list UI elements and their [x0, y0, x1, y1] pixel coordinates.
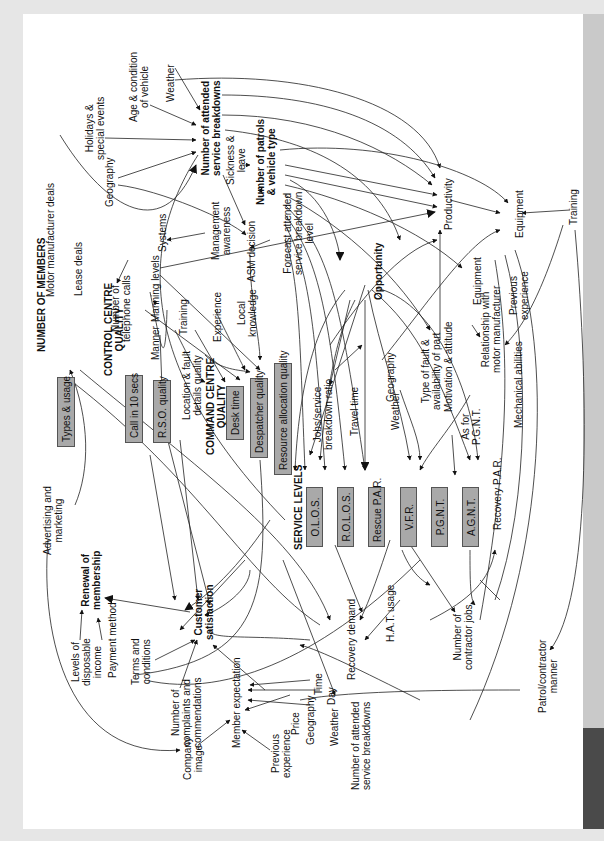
- as-for-pgnt-label: As for P.G.N.T.: [460, 409, 482, 446]
- opportunity-node: Opportunity: [373, 243, 384, 300]
- jobs-ratio-label: Jobs/service breakdown ratio: [312, 379, 334, 450]
- sickness-leave-label: Sickness & leave: [225, 136, 247, 185]
- management-awareness-label: Management awareness: [210, 202, 232, 260]
- type-of-fault-label: Type of fault & availability of part: [420, 333, 442, 410]
- levels-income-label: Levels of disposable income: [70, 638, 103, 686]
- number-of-patrols-node: Number of patrols & vehicle type: [255, 119, 277, 205]
- time-label: Time: [313, 673, 324, 695]
- rescue-par-box: Rescue P.A.R.: [368, 487, 385, 547]
- forecast-label: Forecast attended service breakdown leve…: [282, 192, 315, 275]
- weather-top-label: Weather: [165, 64, 176, 102]
- manning-levels-label: Manning levels: [150, 255, 161, 322]
- previous-experience-bottom-label: Previous experience: [270, 729, 292, 778]
- number-attended-breakdowns-node: Number of attended service breakdowns: [200, 80, 222, 176]
- day-label: Day: [326, 687, 337, 705]
- attended-breakdowns-bottom-label: Number of attended service breakdowns: [350, 702, 372, 790]
- contractor-jobs-label: Number of contractor jobs: [452, 604, 474, 670]
- despatcher-quality-box: Despatcher quality: [250, 378, 268, 458]
- member-expectation-label: Member expectation: [231, 657, 242, 748]
- equipment-right-label: Equipment: [514, 190, 525, 238]
- geography-bottom-label: Geography: [305, 696, 316, 745]
- rolos-box: R.O.L.O.S.: [337, 487, 354, 547]
- pgnt-box: P.G.N.T.: [431, 487, 448, 547]
- motor-manufacturer-deals-label: Motor manufacturer deals: [45, 183, 56, 297]
- rso-quality-box: R.S.O. quality: [153, 380, 171, 443]
- productivity-label: Productivity: [443, 178, 454, 230]
- mechanical-abilities-label: Mechanical abilities: [513, 341, 524, 428]
- call-in-10-secs-box: Call in 10 secs: [125, 375, 143, 443]
- service-levels-heading: SERVICE LEVELS: [293, 465, 304, 550]
- command-centre-quality-heading: COMMAND CENTRE QUALITY: [205, 358, 227, 455]
- motivation-label: Motivation & attitude: [443, 321, 454, 412]
- company-image-label: Company image: [182, 737, 204, 780]
- payment-method-label: Payment method: [107, 602, 118, 678]
- location-fault-label: Location & fault details quality: [181, 351, 203, 420]
- systems-label: Systems: [157, 214, 168, 252]
- lease-deals-label: Lease deals: [73, 242, 84, 296]
- agnt-box: A.G.N.T.: [462, 487, 479, 547]
- holidays-label: Holidays & special events: [84, 97, 106, 160]
- training-right-label: Training: [568, 189, 579, 225]
- training-left-label: Training: [178, 299, 189, 335]
- hat-usage-label: H.A.T. usage: [385, 585, 396, 642]
- renewal-membership-node: Renewal of membership: [80, 551, 102, 610]
- number-telephone-calls-label: Number of telephone calls: [110, 275, 132, 342]
- terms-label: Terms and conditions: [130, 638, 152, 685]
- relationship-label: Relationship with motor manufacturer: [480, 286, 502, 373]
- manner-label: Manner: [150, 326, 161, 360]
- weather-bottom-label: Weather: [329, 708, 340, 746]
- recovery-par-label: Recovery P.A.R.: [492, 457, 503, 530]
- price-label: Price: [290, 712, 301, 735]
- experience-label: Experience: [212, 292, 223, 342]
- desk-time-box: Desk time: [226, 386, 244, 440]
- previous-experience-right-label: Previous experience: [508, 271, 530, 320]
- recovery-demand-label: Recovery demand: [346, 599, 357, 680]
- customer-satisfaction-node: Customer satisfaction: [193, 584, 215, 640]
- age-condition-label: Age & condition of vehicle: [128, 52, 150, 122]
- weather-mid-label: Weather: [390, 392, 401, 430]
- local-knowledge-label: Local knowledge: [236, 289, 258, 337]
- resource-allocation-quality-box: Resource allocation quality: [274, 363, 292, 475]
- advertising-label: Advertising and marketing: [42, 486, 64, 555]
- travel-time-label: Travel time: [349, 387, 360, 436]
- vfr-box: V.F.R.: [400, 487, 417, 547]
- geography-top-label: Geography: [104, 158, 115, 207]
- olos-box: O.L.O.S.: [306, 487, 323, 547]
- patrol-contractor-label: Patrol/contractor manner: [537, 640, 559, 713]
- asm-decision-label: ASM decision: [246, 221, 257, 282]
- types-usage-box: Types & usage: [57, 377, 75, 447]
